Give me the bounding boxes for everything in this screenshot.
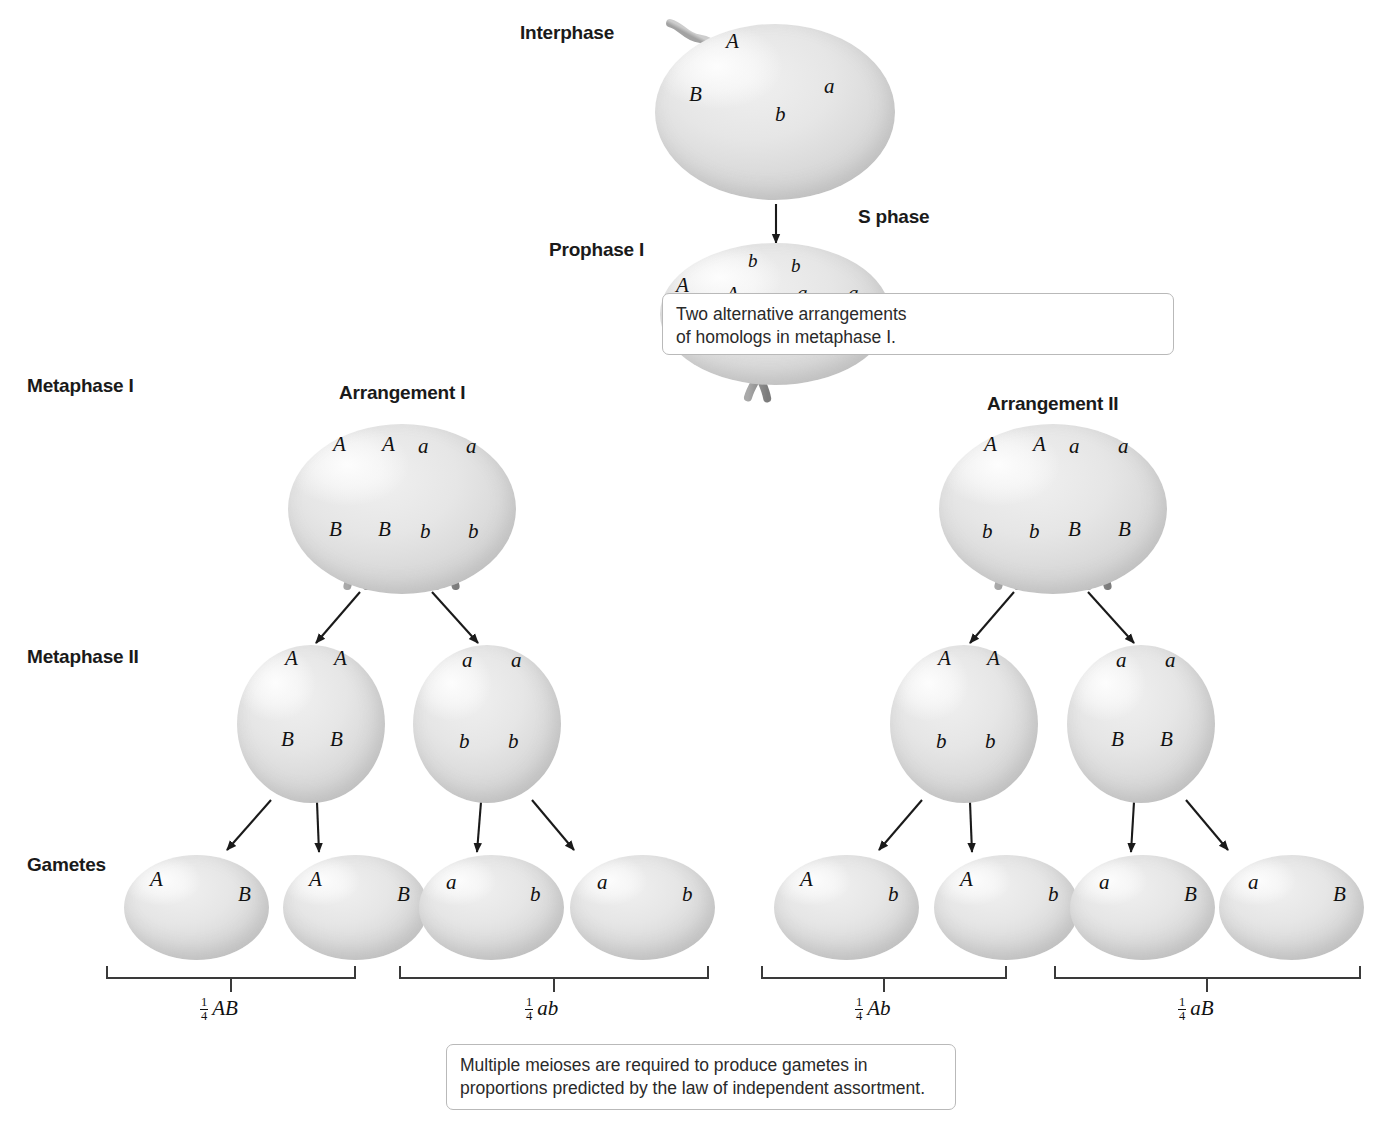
arrow-arr2-to-mii-4 [1088, 592, 1134, 643]
glyph-mii1-A-left: A [285, 648, 298, 669]
glyph-arr1-top-a-left: a [418, 436, 429, 457]
metaphase-ii-cell-1 [237, 645, 385, 803]
glyph-prophase-b-right: b [791, 256, 801, 275]
glyph-mii2-b-left: b [459, 731, 470, 752]
gamete-cell-1 [124, 855, 269, 960]
fraction-Ab-denominator: 4 [855, 1009, 863, 1023]
callout-bottom-note: Multiple meioses are required to produce… [446, 1044, 956, 1110]
glyph-gamete1-small: B [238, 884, 251, 905]
glyph-gamete6-small: b [1048, 884, 1059, 905]
glyph-mii4-a-right: a [1165, 650, 1176, 671]
glyph-mii3-A-left: A [938, 648, 951, 669]
glyph-arr1-bot-B-right: B [378, 519, 391, 540]
glyph-gamete3-big: a [446, 872, 457, 893]
glyph-arr2-bot-b-left: b [982, 521, 993, 542]
genotype-AB: AB [212, 996, 238, 1021]
label-gametes: Gametes [27, 854, 106, 876]
glyph-mii1-A-right: A [334, 648, 347, 669]
glyph-arr2-top-A-right: A [1033, 434, 1046, 455]
metaphase-ii-cell-2 [413, 645, 561, 803]
arrow-mii4-to-gamete-7 [1131, 802, 1134, 852]
gamete-cell-6 [934, 855, 1079, 960]
fraction-aB-denominator: 4 [1178, 1009, 1186, 1023]
fraction-ab-numerator: 1 [525, 996, 533, 1009]
gamete-cell-7 [1070, 855, 1215, 960]
arrow-mii1-to-gamete-2 [317, 802, 319, 852]
arrow-mii3-to-gamete-6 [970, 802, 972, 852]
glyph-gamete7-big: a [1099, 872, 1110, 893]
fraction-aB-numerator: 1 [1178, 996, 1186, 1009]
arrow-mii1-to-gamete-1 [227, 800, 271, 850]
glyph-arr2-top-a-left: a [1069, 436, 1080, 457]
glyph-interphase-b: b [775, 104, 786, 125]
glyph-arr1-bot-B-left: B [329, 519, 342, 540]
fraction-aB: 1 4 [1178, 996, 1186, 1023]
gamete-cell-5 [774, 855, 919, 960]
metaphase-ii-cell-3 [890, 645, 1038, 803]
fraction-Ab-numerator: 1 [855, 996, 863, 1009]
glyph-arr2-top-A-left: A [984, 434, 997, 455]
glyph-gamete4-big: a [597, 872, 608, 893]
glyph-arr1-top-A-right: A [382, 434, 395, 455]
gamete-group-brackets [107, 966, 1360, 992]
genotype-aB: aB [1190, 996, 1213, 1021]
glyph-gamete5-small: b [888, 884, 899, 905]
proportion-AB: 1 4 AB [200, 995, 238, 1022]
arrow-mii3-to-gamete-5 [879, 800, 922, 850]
gamete-cell-8 [1219, 855, 1364, 960]
arrow-mii4-to-gamete-8 [1186, 800, 1228, 850]
glyph-mii3-b-left: b [936, 731, 947, 752]
glyph-prophase-b-left: b [748, 251, 758, 270]
glyph-mii2-b-right: b [508, 731, 519, 752]
arrangement-ii-cell [939, 424, 1167, 594]
arrow-mii2-to-gamete-4 [532, 800, 574, 850]
glyph-gamete8-small: B [1333, 884, 1346, 905]
glyph-mii1-B-left: B [281, 729, 294, 750]
glyph-arr1-top-a-right: a [466, 436, 477, 457]
glyph-gamete4-small: b [682, 884, 693, 905]
glyph-arr1-top-A-left: A [333, 434, 346, 455]
metaphase-ii-cell-4 [1067, 645, 1215, 803]
genotype-Ab: Ab [867, 996, 890, 1021]
proportion-Ab: 1 4 Ab [855, 995, 891, 1022]
arrow-arr2-to-mii-3 [970, 592, 1014, 643]
label-prophase-i: Prophase I [549, 239, 644, 261]
gamete-cell-2 [283, 855, 428, 960]
glyph-mii3-b-right: b [985, 731, 996, 752]
glyph-arr2-bot-B-right: B [1118, 519, 1131, 540]
glyph-mii4-B-right: B [1160, 729, 1173, 750]
label-metaphase-ii: Metaphase II [27, 646, 139, 668]
glyph-gamete8-big: a [1248, 872, 1259, 893]
label-arrangement-ii: Arrangement II [987, 393, 1118, 415]
glyph-gamete2-small: B [397, 884, 410, 905]
glyph-arr1-bot-b-left: b [420, 521, 431, 542]
arrow-arr1-to-mii-2 [432, 592, 478, 643]
callout-metaphase-note: Two alternative arrangements of homologs… [662, 293, 1174, 355]
fraction-Ab: 1 4 [855, 996, 863, 1023]
glyph-mii2-a-left: a [462, 650, 473, 671]
glyph-interphase-a: a [824, 76, 835, 97]
figure-canvas: Interphase S phase Prophase I Metaphase … [0, 0, 1382, 1131]
proportion-aB: 1 4 aB [1178, 995, 1214, 1022]
arrangement-i-cell [288, 424, 516, 594]
fraction-AB-denominator: 4 [200, 1009, 208, 1023]
glyph-interphase-A: A [726, 31, 739, 52]
label-metaphase-i: Metaphase I [27, 375, 134, 397]
glyph-arr2-bot-b-right: b [1029, 521, 1040, 542]
glyph-mii1-B-right: B [330, 729, 343, 750]
proportion-ab: 1 4 ab [525, 995, 558, 1022]
fraction-AB: 1 4 [200, 996, 208, 1023]
gamete-cell-4 [570, 855, 715, 960]
glyph-gamete1-big: A [150, 869, 163, 890]
label-arrangement-i: Arrangement I [339, 382, 465, 404]
glyph-mii3-A-right: A [987, 648, 1000, 669]
glyph-gamete3-small: b [530, 884, 541, 905]
glyph-interphase-B: B [689, 84, 702, 105]
genotype-ab: ab [537, 996, 558, 1021]
fraction-ab-denominator: 4 [525, 1009, 533, 1023]
fraction-AB-numerator: 1 [200, 996, 208, 1009]
arrow-arr1-to-mii-1 [316, 592, 360, 643]
glyph-arr2-bot-B-left: B [1068, 519, 1081, 540]
gamete-cell-3 [419, 855, 564, 960]
glyph-gamete7-small: B [1184, 884, 1197, 905]
